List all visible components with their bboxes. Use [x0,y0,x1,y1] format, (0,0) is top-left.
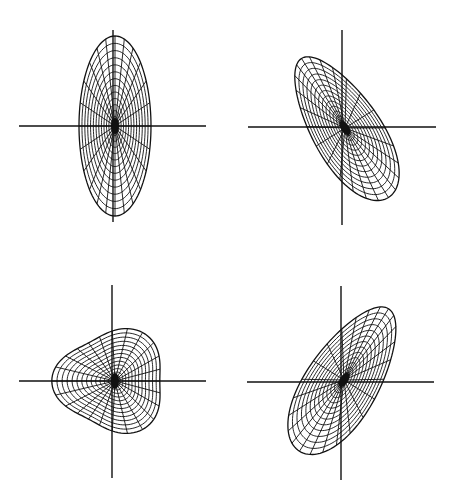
panel-top-left [19,30,206,222]
radial-spoke [302,379,342,380]
panel-top-right [248,30,436,225]
radial-spoke [116,62,140,123]
center-core [111,373,119,389]
radial-spoke [116,129,140,190]
radial-spoke [302,58,344,125]
radial-spoke [56,367,113,380]
center-core [111,118,119,134]
panel-bottom-right [247,286,434,480]
radial-spoke [90,129,114,190]
panel-bottom-left [19,285,206,478]
radial-spoke [56,382,113,395]
figure-canvas [0,0,463,500]
radial-spoke [90,62,114,123]
radial-spoke [347,130,399,178]
